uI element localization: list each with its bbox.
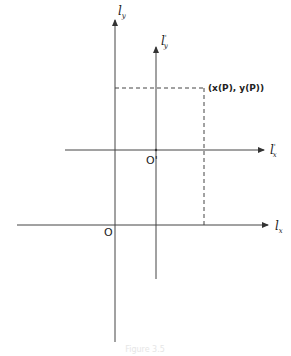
label-origin-o: O [104, 226, 113, 239]
label-l-x: lx [275, 219, 283, 235]
coordinate-diagram: ly l'y l'x lx O' O (x(P), y(P)) Figure 3… [0, 0, 291, 356]
label-l-y-prime: l'y [161, 34, 169, 50]
label-origin-o-prime: O' [146, 154, 158, 167]
label-l-y: ly [118, 4, 127, 20]
figure-caption: Figure 3.5 [125, 345, 165, 354]
label-l-x-prime: l'x [270, 143, 277, 159]
label-point-p: (x(P), y(P)) [208, 83, 264, 93]
origin-o-prime-dot [155, 149, 157, 151]
